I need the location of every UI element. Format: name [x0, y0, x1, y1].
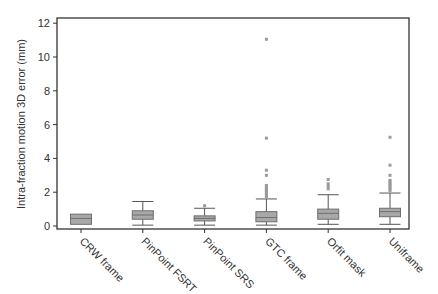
plot-area — [57, 18, 409, 229]
outlier-point — [327, 178, 330, 181]
box-pinpoint-fsrt — [132, 201, 153, 225]
outlier-point — [265, 137, 268, 140]
outlier-point — [265, 184, 268, 187]
outlier-point — [389, 164, 392, 167]
box-uniframe — [380, 136, 401, 225]
x-tick-label: Uniframe — [387, 235, 427, 275]
outlier-point — [203, 204, 206, 207]
iqr-box — [318, 209, 339, 219]
iqr-box — [380, 208, 401, 216]
outlier-point — [265, 38, 268, 41]
outlier-point — [327, 182, 330, 185]
y-tick-label: 8 — [44, 85, 50, 97]
box-orfit-mask — [318, 178, 339, 224]
x-tick-label: PinPoint FSRT — [139, 235, 199, 294]
y-axis-title: Intra-fraction motion 3D error (mm) — [15, 39, 27, 209]
iqr-box — [71, 214, 92, 224]
y-tick-label: 4 — [44, 152, 50, 164]
box-plot-chart: Intra-fraction motion 3D error (mm) 0246… — [0, 0, 438, 294]
outlier-point — [265, 174, 268, 177]
outlier-point — [265, 169, 268, 172]
box-gtc-frame — [256, 38, 277, 225]
box-pinpoint-srs — [194, 204, 215, 225]
y-tick-label: 2 — [44, 186, 50, 198]
x-axis: CRW framePinPoint FSRTPinPoint SRSGTC fr… — [78, 229, 427, 294]
outlier-point — [389, 136, 392, 139]
y-axis: 024681012 — [38, 17, 57, 232]
y-tick-label: 10 — [38, 51, 50, 63]
outlier-point — [389, 174, 392, 177]
x-tick-label: GTC frame — [263, 235, 310, 282]
x-tick-label: PinPoint SRS — [201, 235, 257, 291]
x-tick-label: Orfit mask — [325, 235, 369, 279]
x-tick-label: CRW frame — [78, 235, 127, 284]
box-crw-frame — [71, 214, 92, 224]
y-tick-label: 0 — [44, 220, 50, 232]
y-tick-label: 12 — [38, 17, 50, 29]
iqr-box — [256, 212, 277, 222]
y-tick-label: 6 — [44, 119, 50, 131]
outlier-point — [389, 179, 392, 182]
plot-frame — [57, 18, 409, 229]
